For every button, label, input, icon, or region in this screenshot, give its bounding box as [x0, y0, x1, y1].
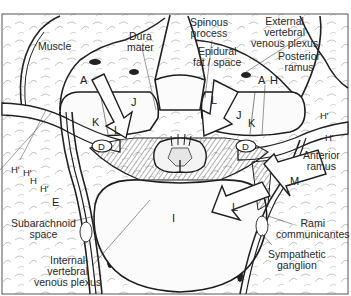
label-muscle: Muscle: [38, 41, 71, 52]
label-external-plexus-line3: venous plexus: [251, 38, 318, 49]
letter-d-right: D: [242, 141, 249, 152]
letter-d-left: D: [98, 141, 105, 152]
label-internal-plexus-line3: venous plexus: [34, 277, 101, 288]
letter-h-right: H: [270, 75, 278, 86]
label-subarachnoid-line2: space: [11, 229, 76, 240]
letter-h-prime-right-top: H': [320, 110, 329, 121]
letter-a-right: A: [258, 75, 265, 86]
label-rami-communicantes: Rami communicantes: [276, 218, 350, 240]
letter-l-top-left: L: [114, 125, 120, 136]
label-posterior-ramus: Posterior ramus: [278, 51, 320, 73]
letter-m: M: [290, 176, 299, 187]
label-spinous-process-line2: process: [190, 28, 228, 39]
label-subarachnoid-space: Subarachnoid space: [11, 218, 76, 240]
letter-i: I: [172, 213, 175, 224]
label-sympathetic-ganglion: Sympathetic ganglion: [268, 249, 326, 271]
label-sympathetic-line2: ganglion: [268, 260, 326, 271]
letter-k-right: K: [248, 118, 255, 129]
label-spinous-process: Spinous process: [190, 17, 228, 39]
label-external-vertebral-venous-plexus: External vertebral venous plexus: [251, 16, 318, 49]
label-anterior-ramus-line2: ramus: [303, 161, 340, 172]
label-dura-mater-line2: mater: [127, 42, 154, 53]
letter-h-prime-left-c: H': [40, 183, 49, 194]
label-rami-line2: communicantes: [276, 229, 350, 240]
letter-k-left: K: [92, 117, 99, 128]
letter-l-bottom: L: [232, 202, 238, 213]
letter-h-prime-left-a: H': [11, 164, 20, 175]
label-epidural-line2: fat / space: [193, 57, 241, 68]
letter-l-top-right: L: [211, 95, 217, 106]
letter-h-left: H: [30, 175, 37, 186]
letter-h-prime-right-mid: H': [325, 132, 334, 143]
label-anterior-ramus: Anterior ramus: [303, 150, 340, 172]
label-posterior-ramus-line2: ramus: [278, 62, 320, 73]
label-epidural-fat-space: Epidural fat / space: [193, 46, 241, 68]
label-dura-mater: Dura mater: [127, 31, 154, 53]
letter-j-right: J: [236, 110, 242, 121]
label-internal-vertebral-venous-plexus: Internal vertebral venous plexus: [34, 255, 101, 288]
spine-cross-section-diagram: Muscle Dura mater Spinous process Epidur…: [0, 0, 351, 296]
letter-e: E: [52, 197, 59, 208]
letter-a-left: A: [80, 75, 87, 86]
letter-j-left: J: [131, 97, 137, 108]
